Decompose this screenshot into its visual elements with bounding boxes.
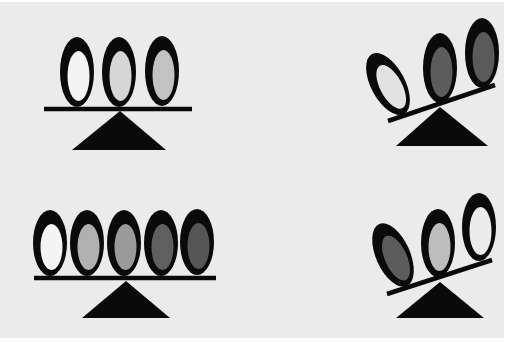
weight-oval bbox=[145, 36, 179, 106]
weight-fill bbox=[473, 32, 495, 82]
weight-oval bbox=[60, 37, 94, 107]
weight-fill bbox=[78, 224, 100, 270]
weight-oval bbox=[33, 210, 67, 276]
weight-oval bbox=[107, 210, 141, 276]
weight-oval bbox=[423, 33, 457, 103]
weight-fill bbox=[470, 207, 492, 255]
weight-fill bbox=[188, 223, 210, 269]
weight-fill bbox=[68, 51, 90, 101]
weight-oval bbox=[70, 210, 104, 276]
weight-oval bbox=[180, 209, 214, 275]
weight-fill bbox=[115, 224, 137, 270]
balance-scales-diagram bbox=[0, 0, 506, 355]
weight-oval bbox=[144, 210, 178, 276]
weight-oval bbox=[462, 193, 496, 261]
weight-oval bbox=[465, 18, 499, 88]
weight-oval bbox=[421, 209, 455, 277]
weight-fill bbox=[152, 224, 174, 270]
weight-fill bbox=[431, 47, 453, 97]
weight-fill bbox=[153, 50, 175, 100]
weight-oval bbox=[102, 37, 136, 107]
weight-fill bbox=[429, 223, 451, 271]
weight-fill bbox=[110, 51, 132, 101]
weight-fill bbox=[41, 224, 63, 270]
